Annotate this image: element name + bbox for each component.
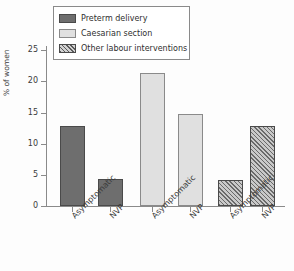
y-tick-mark-20 [41,81,46,82]
legend-item-caesarian-section: Caesarian section [59,26,184,41]
bar-caesarian-asymptomatic [140,73,165,206]
y-tick-label-20: 20 [18,77,38,85]
bar-chart: Preterm delivery Caesarian section Other… [0,0,294,271]
plot-area [47,44,285,206]
bar-preterm-asymptomatic [60,126,85,206]
y-tick-mark-10 [41,144,46,145]
legend-swatch-icon-caesarian [59,29,76,38]
y-tick-mark-15 [41,113,46,114]
y-tick-label-10: 10 [18,140,38,148]
legend-swatch-icon-preterm [59,14,76,23]
y-tick-mark-25 [41,50,46,51]
y-tick-label-0: 0 [18,202,38,210]
y-axis-title: % of women [2,49,11,96]
legend-item-preterm-delivery: Preterm delivery [59,11,184,26]
y-tick-label-5: 5 [18,171,38,179]
y-tick-mark-5 [41,175,46,176]
y-tick-label-25: 25 [18,46,38,54]
y-tick-label-15: 15 [18,109,38,117]
legend-label-preterm: Preterm delivery [81,14,147,23]
legend-label-caesarian: Caesarian section [81,29,152,38]
